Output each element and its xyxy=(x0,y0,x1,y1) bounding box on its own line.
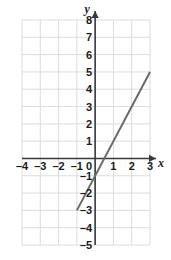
y-tick-label: 6 xyxy=(86,49,92,61)
y-tick-label: –4 xyxy=(80,222,93,234)
y-tick-label: –5 xyxy=(80,239,92,251)
y-tick-label: 5 xyxy=(86,66,92,78)
y-tick-label: –2 xyxy=(80,187,92,199)
y-tick-label: 1 xyxy=(86,135,92,147)
x-tick-label: –4 xyxy=(16,160,29,172)
x-tick-label: 2 xyxy=(129,160,135,172)
y-tick-label: –3 xyxy=(80,204,92,216)
y-tick-label: –1 xyxy=(80,170,92,182)
y-tick-label: 4 xyxy=(86,83,93,95)
x-tick-label: 1 xyxy=(110,160,116,172)
x-tick-label: 3 xyxy=(147,160,153,172)
coordinate-plane-figure: –4–3–2–10123 87654321–1–2–3–4–5 x y xyxy=(0,0,171,260)
graph-canvas: –4–3–2–10123 87654321–1–2–3–4–5 x y xyxy=(0,0,171,260)
y-axis-label: y xyxy=(82,2,90,16)
x-tick-label: –2 xyxy=(52,160,64,172)
x-tick-label: –3 xyxy=(34,160,46,172)
y-tick-label: 7 xyxy=(86,31,92,43)
y-tick-label: 2 xyxy=(86,118,92,130)
y-tick-label: 3 xyxy=(86,101,92,113)
x-axis-label: x xyxy=(157,156,164,170)
